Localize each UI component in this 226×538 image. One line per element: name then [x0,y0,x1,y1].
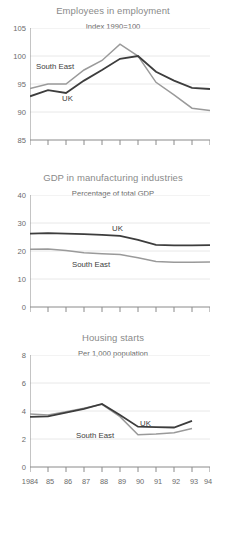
series-label-south-east: South East [76,431,114,440]
y-axis-tick: 0 [2,304,26,312]
chart-housing-starts: Housing starts Per 1,000 population 8 6 … [0,328,226,493]
chart-title: Housing starts [0,332,226,343]
series-line-uk [30,404,192,428]
series-label-uk: UK [62,94,73,103]
x-axis-ticks [30,307,210,312]
chart-title: Employees in employment [0,5,226,16]
chart-employees-in-employment: Employees in employment Index 1990=100 1… [0,0,226,170]
x-axis-tick-label: 85 [41,478,59,486]
y-axis-tick: 105 [2,25,26,33]
series-label-south-east: South East [72,260,110,269]
x-axis-ticks [30,467,210,472]
y-axis-tick: 10 [2,276,26,284]
x-axis-tick-label: 92 [167,478,185,486]
y-axis-tick: 2 [2,436,26,444]
y-axis-tick: 0 [2,464,26,472]
chart-gdp-in-manufacturing-industries: GDP in manufacturing industries Percenta… [0,168,226,328]
gridlines [30,355,210,439]
series-line-south-east [30,44,210,110]
series-line-uk [30,233,210,245]
gridlines [30,195,210,279]
series-label-south-east: South East [36,62,74,71]
y-axis-tick: 8 [2,352,26,360]
x-axis-tick-label: 87 [77,478,95,486]
plot-svg [30,195,210,317]
x-axis-ticks [30,140,210,145]
x-axis-tick-label: 1984 [19,478,41,486]
plot-area [30,355,210,477]
y-axis-tick: 95 [2,81,26,89]
x-axis-tick-label: 88 [95,478,113,486]
x-axis-tick-label: 86 [59,478,77,486]
y-axis-tick: 40 [2,192,26,200]
plot-svg [30,355,210,477]
y-axis-tick: 100 [2,53,26,61]
x-axis-tick-label: 90 [131,478,149,486]
x-axis-tick-label: 91 [149,478,167,486]
y-axis-tick: 90 [2,109,26,117]
y-axis-tick: 20 [2,248,26,256]
plot-area [30,28,210,150]
y-axis-tick: 85 [2,137,26,145]
x-axis-tick-label: 89 [113,478,131,486]
chart-title: GDP in manufacturing industries [0,172,226,183]
series-label-uk: UK [112,224,123,233]
y-axis-tick: 6 [2,380,26,388]
x-axis-tick-label: 94 [199,478,217,486]
series-label-uk: UK [140,419,151,428]
y-axis-tick: 4 [2,408,26,416]
plot-area [30,195,210,317]
y-axis-tick: 30 [2,220,26,228]
plot-svg [30,28,210,150]
